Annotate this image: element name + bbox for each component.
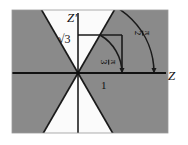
- angle-pi-3-numerator: π: [109, 60, 118, 65]
- real-axis-label: Z: [168, 69, 175, 82]
- angle-pi-2-denominator: 2: [132, 31, 142, 36]
- figure-complex-plane-sectors: Z′ Z 1 √3 π 2 π 3: [0, 0, 188, 145]
- angle-pi-2-numerator: π: [143, 31, 152, 36]
- figure-canvas: [0, 0, 188, 145]
- angle-pi-3-denominator: 3: [98, 60, 108, 65]
- angle-label-pi-over-2: π 2: [132, 31, 152, 36]
- unit-tick-label: 1: [101, 80, 107, 91]
- angle-label-pi-over-3: π 3: [98, 60, 118, 65]
- sqrt3-label: √3: [58, 33, 71, 45]
- imaginary-axis-label: Z′: [67, 11, 77, 24]
